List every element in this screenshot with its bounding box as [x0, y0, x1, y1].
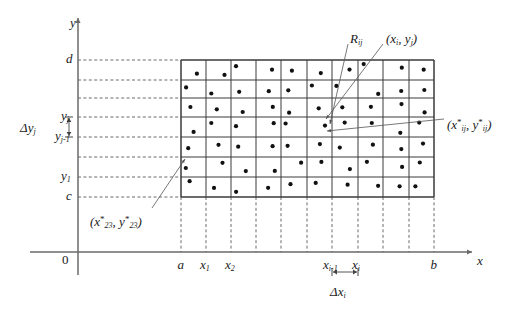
sample-point-dot: [422, 68, 426, 72]
sample-point-dot: [273, 169, 277, 173]
sample-point-dot: [422, 88, 426, 92]
sample-point-leader: [326, 44, 383, 119]
sample-point-dot: [398, 131, 402, 135]
x-tick-label-3: xi-1: [323, 258, 338, 273]
sample-point-dot: [234, 124, 238, 128]
sample-point-label: (xi, yj): [386, 32, 417, 47]
sample-point-dot: [266, 186, 270, 190]
sample-point-dot: [317, 106, 321, 110]
sample-point-dot: [241, 110, 245, 114]
sample-point-dot: [376, 92, 380, 96]
delta-x-label: Δxi: [330, 285, 346, 300]
x-axis-label: x: [477, 254, 483, 267]
sample-point-dot: [362, 62, 366, 66]
sample-point-dot: [287, 111, 291, 115]
sample-point-dot: [423, 110, 427, 114]
y-tick-label-0: d: [66, 52, 73, 65]
x-axis-arrowhead: [467, 249, 472, 254]
x-tick-label-5: b: [431, 258, 438, 271]
sample-point-dot: [267, 89, 271, 93]
sample-point-dot: [272, 121, 276, 125]
sample-point-dot: [346, 183, 350, 187]
sample-point-dot: [310, 83, 314, 87]
sample-point-dot: [376, 184, 380, 188]
sample-point-dot: [270, 68, 274, 72]
x-tick-label-1: x1: [200, 258, 210, 273]
sample-point-dot: [220, 161, 224, 165]
sample-point-dot: [234, 190, 238, 194]
sample-point-dot: [188, 105, 192, 109]
x-tick-label-0: a: [178, 258, 185, 271]
sample-point-dot: [216, 143, 220, 147]
region-label-rij: Rij: [350, 32, 362, 47]
starred-point-left-label: (x*23, y*23): [90, 215, 142, 230]
sample-point-dot: [184, 166, 188, 170]
y-tick-label-1: yj: [61, 109, 69, 124]
origin-label: 0: [62, 253, 69, 266]
sample-point-dot: [286, 144, 290, 148]
region-leader: [330, 44, 348, 124]
starred-left-leader-arrowhead: [182, 159, 185, 163]
sample-point-dot: [413, 184, 417, 188]
sample-point-dot: [400, 165, 404, 169]
y-axis-label: y: [70, 16, 76, 29]
sample-point-dot: [398, 184, 402, 188]
sample-point-dot: [290, 69, 294, 73]
sample-point-dot: [347, 68, 351, 72]
sample-point-dot: [399, 89, 403, 93]
sample-point-dot: [319, 160, 323, 164]
x-tick-label-4: xi: [352, 258, 360, 273]
sample-point-dot: [370, 121, 374, 125]
sample-point-dot: [299, 161, 303, 165]
sample-point-dot: [215, 107, 219, 111]
sample-point-dot: [400, 66, 404, 70]
sample-point-dot: [212, 186, 216, 190]
y-tick-label-2: yj-1: [55, 129, 70, 144]
sample-point-dot: [365, 160, 369, 164]
figure-canvas: [0, 0, 508, 329]
sample-point-dot: [236, 145, 240, 149]
sample-point-dot: [314, 181, 318, 185]
sample-point-dot: [319, 71, 323, 75]
sample-point-dot: [271, 105, 275, 109]
sample-point-dot: [284, 121, 288, 125]
sample-point-dot: [195, 72, 199, 76]
sample-point-dot: [399, 147, 403, 151]
sample-point-dot: [343, 121, 347, 125]
sample-point-dot: [184, 85, 188, 89]
starred-point-right-label: (x*ij, y*ij): [447, 118, 492, 133]
sample-point-dot: [271, 144, 275, 148]
y-tick-label-3: y1: [61, 169, 71, 184]
sample-point-dot: [340, 105, 344, 109]
sample-point-dot: [234, 64, 238, 68]
sample-point-dot: [286, 88, 290, 92]
sample-point-dot: [369, 105, 373, 109]
sample-point-dot: [399, 102, 403, 106]
sample-point-dot: [421, 142, 425, 146]
sample-point-dot: [418, 160, 422, 164]
sample-point-dot: [348, 167, 352, 171]
sample-point-dot: [244, 169, 248, 173]
sample-point-dot: [186, 146, 190, 150]
sample-point-dot: [222, 73, 226, 77]
sample-point-dot: [209, 121, 213, 125]
sample-point-dot: [318, 142, 322, 146]
sample-point-dot: [209, 91, 213, 95]
sample-point-dot: [338, 146, 342, 150]
sample-point-dot: [237, 90, 241, 94]
y-tick-label-4: c: [66, 189, 72, 202]
riemann-sum-figure: y x 0 ax1x2xi-1xibdyjyj-1y1cRij(xi, yj)(…: [0, 0, 508, 329]
sample-point-dot: [188, 179, 192, 183]
sample-point-dot: [371, 143, 375, 147]
sample-point-dot: [323, 124, 327, 128]
sample-dots-group: [184, 62, 427, 194]
sample-point-dot: [288, 182, 292, 186]
starred-left-leader: [152, 159, 185, 208]
x-tick-label-2: x2: [225, 258, 235, 273]
delta-y-label: Δyj: [20, 121, 36, 136]
y-axis-arrowhead: [75, 18, 80, 23]
sample-point-dot: [192, 130, 196, 134]
